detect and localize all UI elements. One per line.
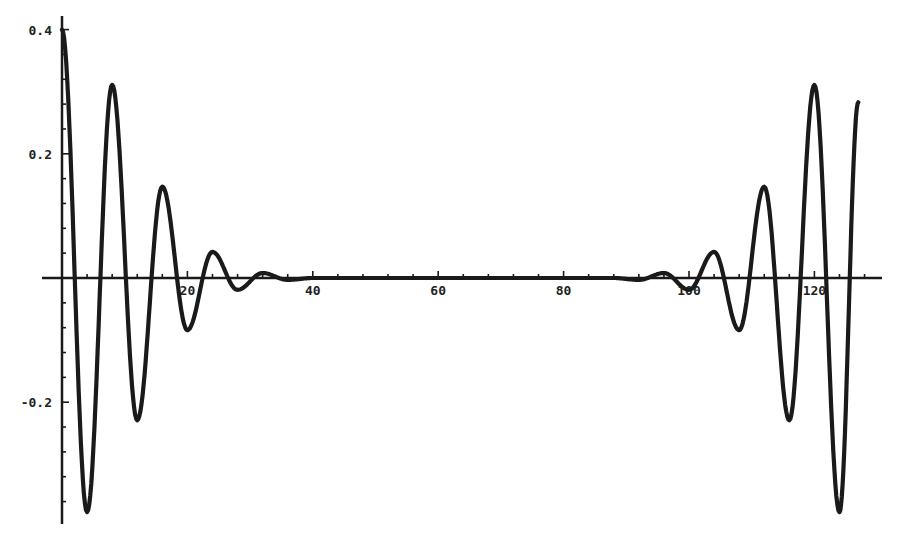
series-line	[62, 30, 858, 512]
x-tick-label: 20	[180, 283, 196, 298]
y-tick-label: -0.2	[21, 395, 52, 410]
x-tick-label: 120	[803, 283, 827, 298]
x-tick-label: 80	[556, 283, 572, 298]
y-tick-label: 0.2	[29, 147, 52, 162]
y-tick-label: 0.4	[29, 23, 53, 38]
x-tick-label: 60	[430, 283, 446, 298]
x-tick-label: 40	[305, 283, 321, 298]
line-chart: 0.40.2-0.2 20406080100120	[0, 0, 897, 539]
y-axis: 0.40.2-0.2	[21, 16, 69, 524]
x-axis: 20406080100120	[42, 271, 882, 298]
